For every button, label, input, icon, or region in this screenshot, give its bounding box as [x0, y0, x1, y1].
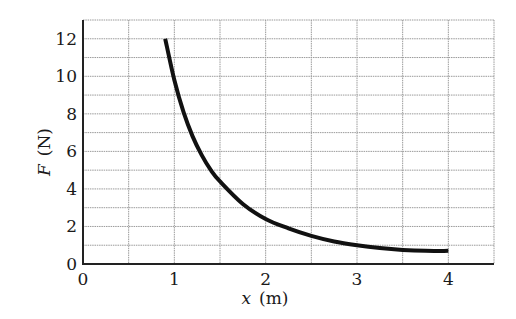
- force-curve: [165, 39, 448, 251]
- x-axis-label: x(m): [242, 288, 289, 308]
- y-tick-label: 0: [66, 254, 77, 274]
- x-tick-label: 2: [260, 269, 271, 289]
- y-tick-label: 12: [55, 29, 77, 49]
- y-tick-label: 8: [66, 104, 77, 124]
- y-tick-label: 6: [66, 141, 77, 161]
- y-axis-unit: (N): [34, 128, 54, 156]
- force-vs-position-chart: 024681012 01234 F(N) x(m): [0, 0, 516, 319]
- y-axis-variable: F: [34, 163, 54, 177]
- x-axis-variable: x: [242, 288, 252, 308]
- y-axis-label: F(N): [34, 128, 54, 177]
- x-tick-labels: 01234: [78, 269, 454, 289]
- y-tick-label: 4: [66, 179, 77, 199]
- y-tick-label: 2: [66, 216, 77, 236]
- y-tick-labels: 024681012: [55, 29, 77, 274]
- y-tick-label: 10: [55, 66, 77, 86]
- x-tick-label: 1: [169, 269, 180, 289]
- x-axis-unit: (m): [259, 288, 288, 308]
- x-tick-label: 4: [443, 269, 454, 289]
- x-tick-label: 0: [78, 269, 89, 289]
- x-tick-label: 3: [352, 269, 363, 289]
